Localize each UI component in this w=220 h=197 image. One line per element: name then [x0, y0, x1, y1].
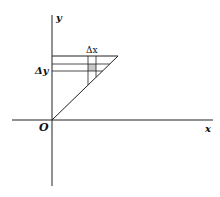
y-axis-label: y — [55, 12, 63, 23]
origin-label: O — [39, 121, 49, 134]
diagonal-line — [52, 56, 118, 120]
delta-y-label: Δy — [34, 65, 50, 76]
shaded-area-element — [88, 64, 96, 71]
x-axis-label: x — [204, 123, 212, 134]
delta-x-label: Δx — [86, 45, 98, 55]
diagram-canvas: y x O Δx Δy — [0, 0, 220, 197]
diagram-svg: y x O Δx Δy — [0, 0, 220, 197]
